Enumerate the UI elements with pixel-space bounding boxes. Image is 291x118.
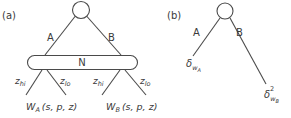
panel-b-leaf-delta-wa: δwA: [186, 58, 201, 73]
panel-a-left-edge-zhi: [26, 70, 42, 95]
panel-a-group-node-label: N: [78, 57, 85, 68]
panel-a-edge-a-label: A: [47, 32, 54, 43]
panel-a-edge-b-label: B: [108, 32, 115, 43]
panel-a-right-edge-zhi: [102, 70, 120, 95]
panel-b-edge-b-label: B: [236, 27, 243, 38]
panel-a-left-zhi-label: zhi: [14, 76, 26, 88]
panel-b-edge-a-label: A: [193, 27, 200, 38]
panel-a-leaf-wb: WB(s, p, z): [106, 101, 157, 114]
diagram-canvas: (a) A B N zhi zlo WA(s, p, z) zhi zlo WB…: [0, 0, 291, 118]
panel-a-edge-b: [87, 17, 121, 56]
panel-a-root-node: [73, 2, 90, 19]
panel-a-right-zlo-label: zlo: [139, 76, 151, 88]
panel-b: (b) A B δwA δwB 2: [167, 3, 279, 104]
panel-b-label: (b): [167, 10, 181, 21]
panel-a: (a) A B N zhi zlo WA(s, p, z) zhi zlo WB…: [2, 2, 157, 115]
panel-b-root-node: [217, 3, 233, 19]
panel-b-leaf-delta2-superscript: 2: [270, 85, 274, 93]
panel-a-leaf-wa: WA(s, p, z): [26, 101, 77, 114]
panel-a-right-zhi-label: zhi: [92, 76, 104, 88]
panel-a-label: (a): [2, 10, 16, 21]
panel-a-left-zlo-label: zlo: [59, 76, 71, 88]
